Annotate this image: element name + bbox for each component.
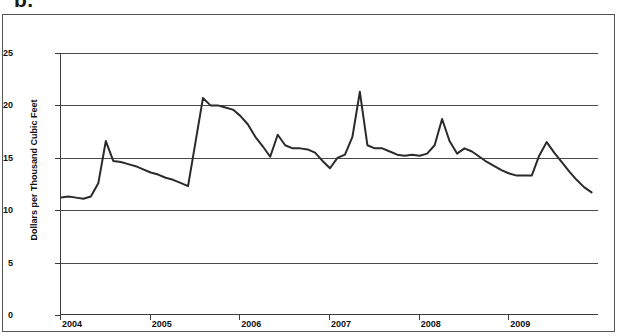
- y-axis-title: Dollars per Thousand Cubic Feet: [29, 55, 39, 285]
- x-tick-mark: [239, 315, 240, 320]
- y-tick-label: 20: [0, 100, 13, 110]
- plot-area: [60, 53, 598, 315]
- y-tick-label: 25: [0, 48, 13, 58]
- x-tick-mark: [60, 315, 61, 320]
- x-tick-label: 2009: [510, 319, 530, 329]
- y-tick-label: 10: [0, 205, 13, 215]
- x-tick-mark: [150, 315, 151, 320]
- y-tick-mark: [55, 105, 60, 106]
- line-path: [61, 92, 592, 199]
- panel-label: b.: [14, 0, 34, 10]
- x-tick-label: 2004: [62, 319, 82, 329]
- y-tick-mark: [55, 210, 60, 211]
- data-line-series: [61, 53, 599, 315]
- x-tick-mark: [419, 315, 420, 320]
- y-tick-label: 15: [0, 153, 13, 163]
- x-tick-label: 2006: [241, 319, 261, 329]
- x-tick-mark: [329, 315, 330, 320]
- x-tick-label: 2007: [331, 319, 351, 329]
- y-tick-mark: [55, 53, 60, 54]
- y-tick-mark: [55, 158, 60, 159]
- x-tick-label: 2008: [421, 319, 441, 329]
- y-tick-mark: [55, 263, 60, 264]
- x-tick-label: 2005: [152, 319, 172, 329]
- chart-screenshot: b. 0510152025 200420052006200720082009 D…: [0, 0, 619, 336]
- y-tick-label: 5: [0, 258, 13, 268]
- y-tick-label: 0: [0, 310, 13, 320]
- x-tick-mark: [508, 315, 509, 320]
- figure-frame: 0510152025 200420052006200720082009 Doll…: [2, 14, 615, 332]
